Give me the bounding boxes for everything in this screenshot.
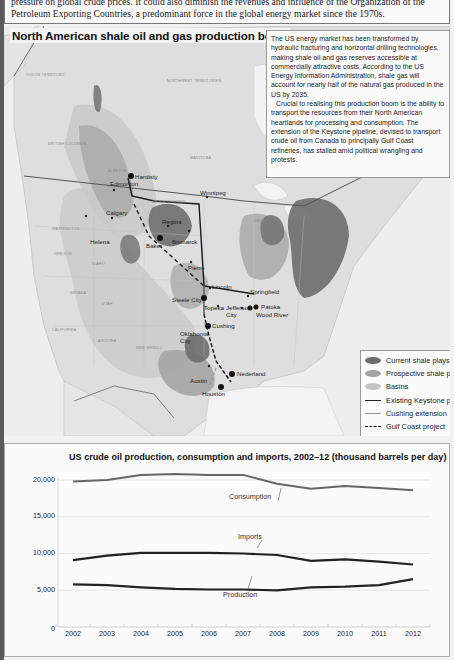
city-label: Topeka <box>204 304 224 311</box>
legend-label: Prospective shale plays <box>386 369 450 378</box>
legend-label: Gulf Coast project <box>386 422 445 431</box>
info-box: The US energy market has been transforme… <box>266 30 450 178</box>
city-label: Edmonton <box>110 180 138 187</box>
current-shale-swatch-icon <box>365 357 381 364</box>
city-label: Patoka <box>261 303 280 310</box>
consumption-line <box>73 474 413 490</box>
city-label: Springfield <box>250 288 279 295</box>
legend-label: Current shale plays <box>386 356 450 365</box>
x-tick: 2012 <box>398 629 428 638</box>
legend-item-gulf-coast: Gulf Coast project <box>365 420 450 433</box>
dashed-line-icon <box>365 426 381 427</box>
city-label: Pierre <box>188 264 205 271</box>
production-label: Production <box>223 590 257 599</box>
region-label: SASKATCHEWAN <box>152 200 185 204</box>
intro-line-1: pressure on global crude prices. It coul… <box>11 0 443 8</box>
city-label: Austin <box>190 377 207 384</box>
chart-plot-area <box>5 444 451 658</box>
region-label: OREGON <box>54 252 72 256</box>
shale-map: North American shale oil and gas product… <box>4 26 450 436</box>
city-label: Bismarck <box>172 238 197 245</box>
region-label: BRITISH COLUMBIA <box>48 142 87 146</box>
city-label: Winnipeg <box>200 189 226 196</box>
legend-item-prospective-shale: Prospective shale plays <box>365 367 450 380</box>
city-label: Nederland <box>237 370 266 377</box>
region-label: MANITOBA <box>190 156 211 160</box>
map-title: North American shale oil and gas product… <box>10 28 291 43</box>
legend-label: Houston lateral project <box>386 435 450 436</box>
x-tick: 2004 <box>126 629 156 638</box>
city-label: Regina <box>162 218 182 225</box>
city-label: Cushing <box>212 322 235 329</box>
x-tick: 2005 <box>160 629 190 638</box>
legend-item-cushing-extension: Cushing extension <box>365 407 450 420</box>
intro-text: pressure on global crude prices. It coul… <box>4 0 450 24</box>
city-label: Baker <box>146 242 162 249</box>
region-label: WASHINGTON <box>52 227 80 231</box>
x-tick: 2007 <box>228 629 258 638</box>
city-label: Houston <box>202 390 225 397</box>
x-tick: 2006 <box>194 629 224 638</box>
legend-item-houston-lateral: Houston lateral project <box>365 433 450 436</box>
legend-label: Existing Keystone pipeline <box>386 396 450 405</box>
city-label: Steele City <box>172 296 202 303</box>
line-chart: US crude oil production, consumption and… <box>4 443 450 657</box>
x-tick: 2011 <box>364 629 394 638</box>
prospective-shale-swatch-icon <box>365 370 381 377</box>
info-paragraph-2: Crucial to realising this production boo… <box>271 99 445 164</box>
legend-item-current-shale: Current shale plays <box>365 354 450 367</box>
legend-label: Cushing extension <box>386 409 447 418</box>
region-label: ALBERTA <box>108 169 126 173</box>
production-line <box>73 579 413 590</box>
legend-label: Basins <box>386 382 408 391</box>
region-label: YUKON TERRITORY <box>26 73 65 77</box>
city-label: Wood River <box>256 311 288 318</box>
city-label: Lincoln <box>212 283 232 290</box>
city-label: Hardisty <box>135 173 158 180</box>
imports-line <box>73 553 413 565</box>
region-label: NORTHWEST TERRITORIES <box>167 79 221 83</box>
city-label: Oklahoma City <box>180 330 210 344</box>
info-paragraph-1: The US energy market has been transforme… <box>271 34 445 99</box>
region-label: UTAH <box>102 302 113 306</box>
city-label: Jefferson City <box>226 304 258 318</box>
legend-item-existing-keystone: Existing Keystone pipeline <box>365 394 450 407</box>
consumption-label: Consumption <box>229 492 271 501</box>
city-label: Helena <box>90 238 110 245</box>
solid-line-icon <box>365 413 381 414</box>
x-tick: 2008 <box>262 629 292 638</box>
solid-line-icon <box>365 400 381 401</box>
region-label: ONTARIO <box>254 219 272 223</box>
map-legend: Current shale plays Prospective shale pl… <box>360 350 450 436</box>
x-tick: 2003 <box>92 629 122 638</box>
x-tick: 2009 <box>296 629 326 638</box>
intro-line-2: Petroleum Exporting Countries, a predomi… <box>11 8 443 20</box>
region-label: NEVADA <box>70 291 86 295</box>
city-label: Calgary <box>106 209 127 216</box>
x-tick: 2002 <box>58 629 88 638</box>
legend-item-basins: Basins <box>365 380 450 393</box>
x-tick: 2010 <box>330 629 360 638</box>
region-label: CALIFORNIA <box>52 328 77 332</box>
imports-label: Imports <box>238 532 262 541</box>
basins-swatch-icon <box>365 383 381 390</box>
region-label: ARIZONA <box>98 339 116 343</box>
region-label: NEW MEXICO <box>136 346 163 350</box>
region-label: IDAHO <box>92 262 105 266</box>
